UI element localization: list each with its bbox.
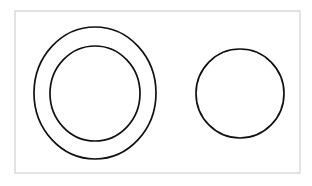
figure-container [0,0,312,186]
figure-canvas [0,0,312,186]
figure-border [15,11,300,173]
